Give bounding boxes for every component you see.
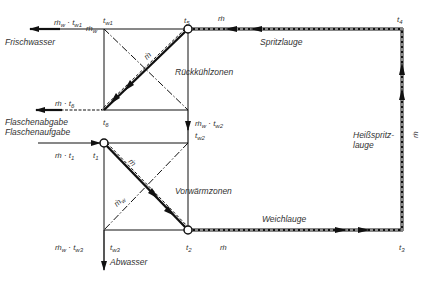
label-bottle-in: Flaschenaufgabe (5, 127, 70, 137)
symbol-mw-tw1: ṁw · tw1 (54, 18, 82, 28)
node-t1 (100, 139, 108, 147)
symbol-t6: t6 (103, 118, 109, 128)
spray-lye-arrowhead-2 (250, 26, 262, 32)
symbol-mw-lower-diagonal: ṁw (112, 194, 127, 209)
label-hot-spray-lye-2: lauge (353, 140, 374, 150)
symbol-mdot-soak: ṁ (220, 243, 227, 252)
symbol-t-w3: tw3 (110, 243, 121, 253)
node-t2 (184, 226, 192, 234)
symbol-mdot-spray: ṁ (218, 14, 225, 23)
hot-spray-lye-arrowhead-2 (399, 88, 405, 100)
symbol-t4: t4 (397, 15, 403, 25)
symbol-t-w1: tw1 (103, 16, 113, 26)
symbol-mw-tw3: ṁw · tw3 (55, 243, 84, 253)
symbol-m-t6: ṁ · t6 (55, 99, 75, 109)
label-zone-upper: Rückkühlzonen (175, 67, 233, 77)
label-soak-lye: Weichlauge (262, 214, 307, 224)
symbol-mdot-upper-diagonal: ṁ (142, 50, 153, 61)
label-zone-lower: Vorwärmzonen (175, 186, 232, 196)
spray-lye-arrowhead-1 (225, 26, 237, 32)
symbol-t2: t2 (186, 243, 192, 253)
heat-recovery-diagram: Frischwasser Flaschenabgabe Flaschenaufg… (0, 0, 433, 281)
symbol-mw-tw2: ṁw · tw2 (195, 119, 224, 129)
soak-lye-arrowhead-2 (358, 227, 370, 233)
label-hot-spray-lye-1: Heißspritz- (353, 130, 394, 140)
soak-lye-arrowhead-1 (335, 227, 347, 233)
symbol-m-t1: ṁ · t1 (55, 151, 74, 161)
hot-spray-lye-arrowhead-1 (399, 62, 405, 75)
label-bottle-out: Flaschenabgabe (5, 117, 68, 127)
symbol-t1: t1 (93, 151, 99, 161)
symbol-t-w2: tw2 (195, 131, 206, 141)
symbol-t3: t3 (399, 243, 405, 253)
symbol-mw-top-extra: ṁw (86, 24, 98, 34)
node-t5 (184, 25, 192, 33)
label-fresh-water: Frischwasser (5, 37, 56, 47)
symbol-mdot-hot-spray: ṁ (411, 131, 420, 138)
label-waste-water: Abwasser (109, 257, 148, 267)
symbol-t5: t5 (184, 16, 190, 26)
label-spray-lye: Spritzlauge (260, 37, 303, 47)
